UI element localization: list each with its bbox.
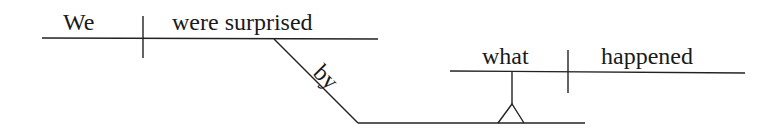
clause-subject-word: what [482, 43, 529, 69]
noun-clause-baseline [450, 71, 745, 73]
pedestal-triangle [498, 104, 524, 123]
main-predicate-word: were surprised [172, 9, 313, 35]
preposition-word: by [308, 59, 343, 94]
main-subject-word: We [63, 9, 94, 35]
sentence-diagram: We were surprised by what happened [0, 0, 782, 137]
clause-predicate-word: happened [601, 43, 693, 69]
main-clause-baseline [42, 38, 378, 39]
